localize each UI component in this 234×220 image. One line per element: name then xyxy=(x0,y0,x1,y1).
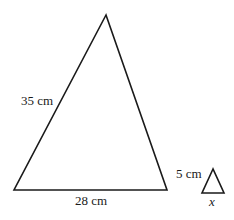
small-left-side-label: 5 cm xyxy=(176,166,202,181)
small-triangle xyxy=(202,169,224,193)
small-base-label: x xyxy=(208,194,215,209)
large-base-label: 28 cm xyxy=(75,193,107,208)
large-left-side-label: 35 cm xyxy=(21,93,53,108)
similar-triangles-diagram: 35 cm 28 cm 5 cm x xyxy=(0,0,234,220)
